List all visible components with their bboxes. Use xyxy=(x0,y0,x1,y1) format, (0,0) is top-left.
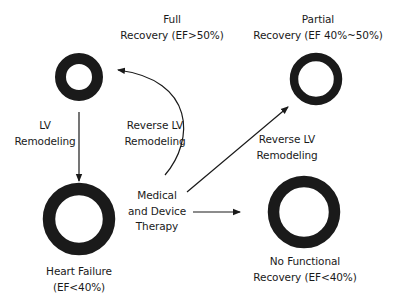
lv-remodeling-label: LV Remodeling xyxy=(14,118,75,149)
heart-failure-label: Heart Failure (EF<40%) xyxy=(46,264,112,295)
reverse-partial-remodeling-label: Reverse LV Remodeling xyxy=(256,132,317,163)
therapy-label: Medical and Device Therapy xyxy=(128,188,186,235)
full-recovery-label: Full Recovery (EF>50%) xyxy=(120,12,223,43)
partial-recovery-label: Partial Recovery (EF 40%~50%) xyxy=(253,12,383,43)
reverse-full-remodeling-label: Reverse LV Remodeling xyxy=(124,118,185,149)
partial-recovery-ring xyxy=(294,57,338,101)
normal-heart-ring xyxy=(61,59,98,96)
no-functional-recovery-ring xyxy=(274,182,335,243)
no-functional-recovery-label: No Functional Recovery (EF<40%) xyxy=(253,254,356,285)
heart-failure-ring xyxy=(49,189,109,249)
